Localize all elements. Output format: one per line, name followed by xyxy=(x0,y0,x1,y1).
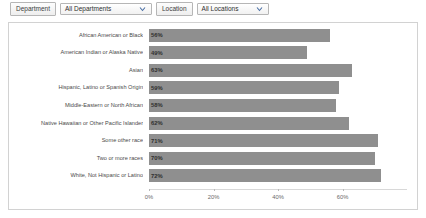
department-filter-select[interactable]: All Departments xyxy=(60,3,152,15)
category-label: Hispanic, Latino or Spanish Origin xyxy=(0,84,143,91)
bar-value-label: 56% xyxy=(151,31,163,39)
category-label: Middle-Eastern or North African xyxy=(0,102,143,109)
bar[interactable] xyxy=(149,134,378,147)
x-axis-tick-label: 60% xyxy=(337,193,349,201)
category-label: Some other race xyxy=(0,137,143,144)
bar[interactable] xyxy=(149,81,339,94)
x-axis-tick xyxy=(214,189,215,191)
location-filter-label: Location xyxy=(156,2,193,17)
category-label: White, Not Hispanic or Latino xyxy=(0,172,143,179)
category-label: Native Hawaiian or Other Pacific Islande… xyxy=(0,120,143,127)
bar-value-label: 71% xyxy=(151,137,163,145)
x-axis-tick-label: 0% xyxy=(145,193,153,201)
bar-value-label: 49% xyxy=(151,49,163,57)
bar-value-label: 72% xyxy=(151,172,163,180)
bar[interactable] xyxy=(149,46,307,59)
x-axis-tick-label: 20% xyxy=(208,193,220,201)
location-filter-select[interactable]: All Locations xyxy=(197,3,269,15)
bar[interactable] xyxy=(149,64,352,77)
bar-value-label: 59% xyxy=(151,84,163,92)
bar[interactable] xyxy=(149,152,375,165)
chart-panel: African American or Black56%American Ind… xyxy=(8,22,418,210)
bar-value-label: 70% xyxy=(151,154,163,162)
x-axis-tick xyxy=(149,189,150,191)
x-axis-tick xyxy=(343,189,344,191)
x-axis-tick-label: 40% xyxy=(272,193,284,201)
category-label: Two or more races xyxy=(0,155,143,162)
department-filter-label: Department xyxy=(10,2,56,17)
department-filter-value: All Departments xyxy=(65,4,111,14)
bar[interactable] xyxy=(149,29,330,42)
bar[interactable] xyxy=(149,99,336,112)
bar-value-label: 63% xyxy=(151,66,163,74)
bar-value-label: 58% xyxy=(151,101,163,109)
chevron-down-icon xyxy=(256,6,263,13)
filter-bar: Department All Departments Location All … xyxy=(0,0,426,18)
chevron-down-icon xyxy=(139,6,146,13)
bar-chart: African American or Black56%American Ind… xyxy=(9,23,417,209)
x-axis-tick xyxy=(278,189,279,191)
bar[interactable] xyxy=(149,117,349,130)
category-label: Asian xyxy=(0,67,143,74)
category-label: African American or Black xyxy=(0,32,143,39)
category-label: American Indian or Alaska Native xyxy=(0,49,143,56)
bar-value-label: 62% xyxy=(151,119,163,127)
location-filter-value: All Locations xyxy=(202,4,239,14)
bar[interactable] xyxy=(149,169,381,182)
